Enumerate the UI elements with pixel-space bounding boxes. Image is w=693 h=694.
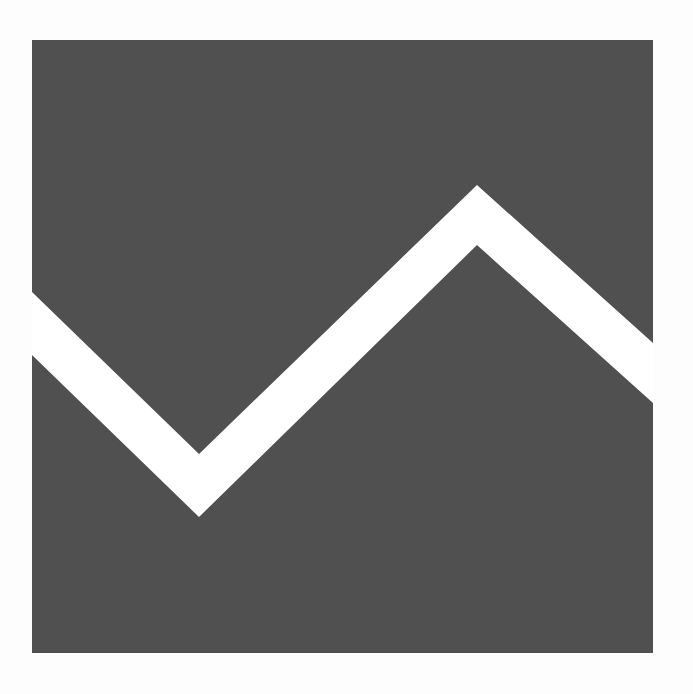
- zigzag-logo-icon: [0, 0, 693, 694]
